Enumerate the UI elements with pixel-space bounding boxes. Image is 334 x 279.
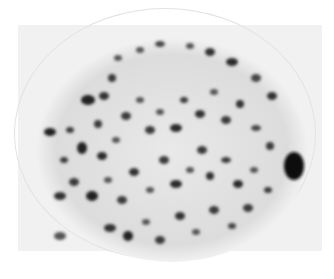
nucleus-body bbox=[36, 38, 308, 262]
dark-body bbox=[284, 152, 304, 180]
nucleus-graphic bbox=[0, 0, 334, 279]
